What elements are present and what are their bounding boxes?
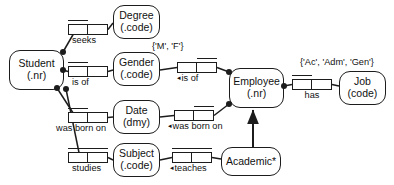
role-boxes-was-born-on-student[interactable] — [68, 112, 108, 123]
predicate-label-is-of-employee: ◂is of — [177, 74, 198, 83]
edge-subject-teaches — [160, 158, 172, 161]
predicate-label-was-born-on-student: was born on — [56, 124, 106, 133]
edge-date-wasbornon2 — [160, 116, 174, 118]
entity-gender-reference: (.code) — [120, 69, 153, 81]
uniqueness-bar-studies — [68, 148, 108, 149]
uniqueness-bar-has-job — [292, 75, 312, 76]
entity-degree-reference: (.code) — [120, 22, 153, 34]
predicate-text: teaches — [175, 163, 207, 173]
orm-diagram-canvas: Student (.nr) Degree (.code) Gender (.co… — [0, 0, 394, 185]
role-cell[interactable] — [192, 153, 211, 162]
uniqueness-bar-is-of-employee — [197, 58, 217, 59]
predicate-text: seeks — [72, 35, 96, 45]
predicate-studies[interactable]: studies — [68, 152, 108, 163]
entity-academic-name: Academic* — [226, 156, 276, 168]
entity-subject-reference: (.code) — [120, 160, 153, 172]
direction-arrow-icon: ◂ — [170, 164, 174, 171]
entity-gender[interactable]: Gender (.code) — [113, 52, 160, 86]
role-cell[interactable] — [88, 113, 107, 122]
predicate-is-of-employee[interactable]: ◂is of — [177, 62, 217, 73]
role-cell[interactable] — [69, 67, 88, 76]
direction-arrow-icon: ◂ — [177, 74, 181, 81]
role-cell[interactable] — [293, 80, 312, 89]
predicate-label-has-job: has — [305, 91, 320, 100]
value-constraint-job: {'Ac', 'Adm', 'Gen'} — [300, 58, 374, 67]
role-cell[interactable] — [69, 113, 88, 122]
uniqueness-bar-seeks — [68, 20, 88, 21]
role-cell[interactable] — [69, 25, 88, 34]
predicate-label-studies: studies — [72, 164, 101, 173]
predicate-label-seeks: seeks — [72, 36, 96, 45]
predicate-was-born-on-student[interactable]: was born on — [68, 112, 108, 123]
entity-date-reference: (dmy) — [123, 117, 150, 129]
entity-employee[interactable]: Employee (.nr) — [229, 68, 284, 108]
role-cell[interactable] — [178, 63, 197, 72]
predicate-text: is of — [72, 77, 89, 87]
role-boxes-is-of-gender[interactable] — [68, 66, 108, 77]
value-constraint-gender: {'M', 'F'} — [152, 42, 184, 51]
edge-has-job — [332, 85, 339, 87]
uniqueness-bar-is-of-gender — [68, 62, 88, 63]
predicate-was-born-on-employee[interactable]: ◂was born on — [174, 110, 214, 121]
entity-job[interactable]: Job (code) — [339, 71, 386, 105]
predicate-teaches[interactable]: ◂teaches — [172, 152, 212, 163]
predicate-label-is-of-gender: is of — [72, 78, 89, 87]
role-cell[interactable] — [194, 111, 213, 120]
direction-arrow-icon: ◂ — [168, 122, 172, 129]
predicate-text: was born on — [173, 121, 223, 131]
predicate-is-of-gender[interactable]: is of — [68, 66, 108, 77]
edge-teaches-academic — [212, 158, 221, 160]
edge-gender-isof2 — [160, 68, 177, 71]
role-cell[interactable] — [197, 63, 216, 72]
entity-employee-reference: (.nr) — [247, 88, 266, 100]
role-cell[interactable] — [173, 153, 192, 162]
role-boxes-studies[interactable] — [68, 152, 108, 163]
entity-subject[interactable]: Subject (.code) — [113, 143, 160, 177]
predicate-text: is of — [182, 73, 199, 83]
entity-student[interactable]: Student (.nr) — [9, 50, 64, 90]
predicate-text: was born on — [56, 123, 106, 133]
entity-date[interactable]: Date (dmy) — [113, 100, 160, 134]
role-boxes-teaches[interactable] — [172, 152, 212, 163]
role-cell[interactable] — [175, 111, 194, 120]
uniqueness-bar-was-born-on-student — [68, 108, 88, 109]
predicate-seeks[interactable]: seeks — [68, 24, 108, 35]
role-boxes-was-born-on-employee[interactable] — [174, 110, 214, 121]
entity-job-reference: (code) — [348, 88, 378, 100]
role-cell[interactable] — [88, 67, 107, 76]
predicate-label-was-born-on-employee: ◂was born on — [168, 122, 223, 131]
role-boxes-is-of-employee[interactable] — [177, 62, 217, 73]
role-boxes-has-job[interactable] — [292, 79, 332, 90]
role-cell[interactable] — [69, 153, 88, 162]
predicate-text: has — [305, 90, 320, 100]
uniqueness-bar-was-born-on-employee — [194, 106, 214, 107]
predicate-text: studies — [72, 163, 101, 173]
entity-academic[interactable]: Academic* — [221, 147, 281, 176]
predicate-label-teaches: ◂teaches — [170, 164, 207, 173]
role-cell[interactable] — [88, 153, 107, 162]
role-cell[interactable] — [312, 80, 331, 89]
role-cell[interactable] — [88, 25, 107, 34]
uniqueness-bar-teaches — [172, 148, 212, 149]
role-boxes-seeks[interactable] — [68, 24, 108, 35]
entity-degree[interactable]: Degree (.code) — [113, 5, 160, 39]
predicate-has-job[interactable]: has — [292, 79, 332, 90]
entity-student-reference: (.nr) — [27, 70, 46, 82]
